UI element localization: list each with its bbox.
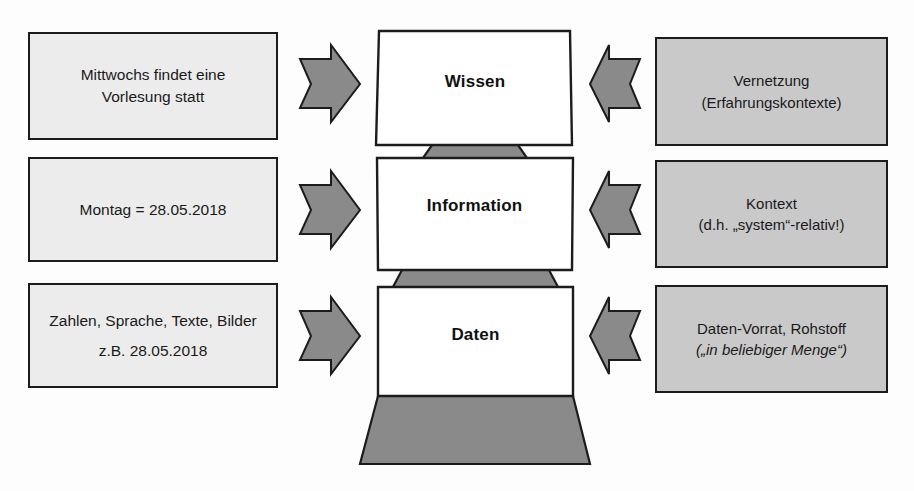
arrow-right-vernetzung	[590, 45, 640, 122]
arrow-left-daten	[300, 297, 360, 374]
arrow-right-kontext	[590, 171, 640, 248]
arrow-right-daten-vorrat	[590, 297, 640, 374]
pyramid-base-trapezoid	[360, 396, 590, 464]
pyramid-tier-daten-label: Daten	[378, 325, 573, 345]
arrow-left-wissen	[300, 45, 360, 122]
pyramid-tier-information-label: Information	[377, 196, 572, 216]
pyramid-tier-wissen-label: Wissen	[379, 72, 571, 92]
arrow-left-information	[300, 171, 360, 248]
diagram-canvas: Mittwochs findet eine Vorlesung statt Mo…	[0, 0, 914, 491]
connector-information-wissen	[423, 145, 527, 158]
connector-daten-information	[393, 270, 558, 287]
